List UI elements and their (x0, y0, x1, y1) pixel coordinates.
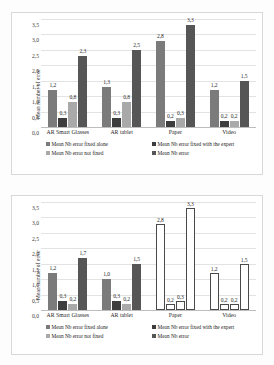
y-tick-label: 3,0 (32, 37, 39, 43)
bar: 1,7 (78, 258, 87, 310)
y-axis-ticks-bottom: 0,00,51,01,52,02,53,03,5 (22, 202, 39, 354)
bar: 1,0 (102, 279, 111, 310)
bar: 0,2 (220, 304, 229, 310)
bar: 0,3 (176, 118, 185, 127)
bar-value-label: 0,2 (221, 297, 228, 303)
legend-item[interactable]: Mean Nb error fixed alone (46, 141, 148, 147)
legend-label: Mean Nb error fixed with the expert (158, 141, 235, 147)
bar-value-label: 1,5 (133, 256, 140, 262)
bar-group: 1,20,20,21,5 (202, 202, 256, 310)
bar-value-label: 1,3 (103, 79, 110, 85)
bar-value-label: 0,3 (59, 110, 66, 116)
bar-groups-bottom: 1,20,30,21,71,00,30,21,52,80,20,33,31,20… (41, 202, 256, 310)
legend-swatch-icon (152, 142, 156, 146)
bar-value-label: 1,7 (79, 250, 86, 256)
bar-value-label: 0,3 (59, 293, 66, 299)
legend-item[interactable]: Mean Nb error fixed with the expert (152, 141, 254, 147)
y-tick-label: 2,5 (32, 236, 39, 242)
bar-value-label: 0,2 (167, 113, 174, 119)
y-tick-label: 1,0 (32, 99, 39, 105)
bar: 1,3 (102, 87, 111, 127)
legend-item[interactable]: Mean Nb error not fixed (46, 150, 148, 156)
bar: 1,2 (210, 90, 219, 127)
bar: 0,3 (58, 118, 67, 127)
legend-item[interactable]: Mean Nb error fixed with the expert (152, 324, 254, 330)
category-label: Paper (149, 129, 203, 135)
bar: 2,3 (78, 56, 87, 127)
y-tick-label: 3,0 (32, 220, 39, 226)
bar-value-label: 2,5 (133, 42, 140, 48)
legend-swatch-icon (46, 151, 50, 155)
bar-value-label: 0,3 (113, 293, 120, 299)
bar-value-label: 0,2 (231, 113, 238, 119)
legend-item[interactable]: Mean Nb error (152, 150, 254, 156)
bar-value-label: 0,2 (231, 297, 238, 303)
y-tick-label: 1,5 (32, 84, 39, 90)
bar: 1,5 (132, 264, 141, 310)
category-label: AR Smart Glasses (41, 312, 95, 318)
bar-value-label: 1,0 (103, 271, 110, 277)
bar: 0,2 (230, 304, 239, 310)
legend-top: Mean Nb error fixed aloneMean Nb error f… (46, 141, 254, 156)
gridline (41, 310, 256, 311)
y-tick-label: 1,5 (32, 267, 39, 273)
bar-group: 1,00,30,21,5 (95, 202, 149, 310)
plot-wrapper-bottom: Mean number of error 0,00,51,01,52,02,53… (12, 196, 262, 354)
legend-label: Mean Nb error not fixed (52, 150, 104, 156)
legend-swatch-icon (152, 325, 156, 329)
legend-item[interactable]: Mean Nb error fixed alone (46, 324, 148, 330)
bar: 3,3 (186, 208, 195, 310)
legend-swatch-icon (152, 151, 156, 155)
bar: 0,8 (68, 102, 77, 127)
bar: 2,8 (156, 41, 165, 127)
legend-label: Mean Nb error not fixed (52, 333, 104, 339)
y-tick-label: 3,5 (32, 205, 39, 211)
bar: 1,5 (240, 81, 249, 127)
bar: 0,2 (230, 121, 239, 127)
legend-item[interactable]: Mean Nb error not fixed (46, 333, 148, 339)
bar-value-label: 1,2 (49, 82, 56, 88)
bar: 2,5 (132, 50, 141, 127)
bar-value-label: 2,8 (157, 217, 164, 223)
bar: 1,5 (240, 264, 249, 310)
legend-swatch-icon (46, 142, 50, 146)
bar: 0,3 (176, 301, 185, 310)
category-label: Paper (149, 312, 203, 318)
y-tick-label: 1,0 (32, 282, 39, 288)
bar: 0,2 (166, 121, 175, 127)
bar-group: 1,30,30,82,5 (95, 19, 149, 127)
legend-label: Mean Nb error (158, 333, 189, 339)
bar: 0,2 (166, 304, 175, 310)
gridline (41, 127, 256, 128)
bar-value-label: 1,2 (49, 265, 56, 271)
plot-area-top: 1,20,30,82,31,30,30,82,52,80,20,33,31,20… (41, 19, 256, 127)
legend-item[interactable]: Mean Nb error (152, 333, 254, 339)
category-labels-bottom: AR Smart GlassesAR tabletPaperVideo (41, 312, 256, 318)
bar-group: 1,20,30,82,3 (41, 19, 95, 127)
legend-bottom: Mean Nb error fixed aloneMean Nb error f… (46, 324, 254, 339)
y-tick-label: 0,0 (32, 130, 39, 136)
y-tick-label: 0,5 (32, 115, 39, 121)
legend-swatch-icon (46, 325, 50, 329)
bar: 0,2 (68, 304, 77, 310)
legend-label: Mean Nb error fixed alone (52, 324, 108, 330)
legend-label: Mean Nb error fixed with the expert (158, 324, 235, 330)
y-tick-label: 2,0 (32, 251, 39, 257)
plot-area-bottom: 1,20,30,21,71,00,30,21,52,80,20,33,31,20… (41, 202, 256, 310)
plot-wrapper-top: Mean number of error 0,00,51,01,52,02,53… (12, 13, 262, 174)
bar: 0,3 (58, 301, 67, 310)
y-tick-label: 0,0 (32, 313, 39, 319)
category-label: Video (202, 312, 256, 318)
bar-group: 2,80,20,33,3 (149, 202, 203, 310)
bar: 1,2 (48, 273, 57, 310)
bar: 0,8 (122, 102, 131, 127)
y-tick-label: 0,5 (32, 298, 39, 304)
bar-value-label: 0,2 (167, 297, 174, 303)
bar-value-label: 0,2 (221, 113, 228, 119)
legend-swatch-icon (46, 334, 50, 338)
bar-value-label: 0,8 (123, 94, 130, 100)
bar-value-label: 1,2 (211, 266, 218, 272)
bar-value-label: 0,3 (113, 110, 120, 116)
bar-group: 1,20,20,21,5 (202, 19, 256, 127)
category-label: AR tablet (95, 312, 149, 318)
